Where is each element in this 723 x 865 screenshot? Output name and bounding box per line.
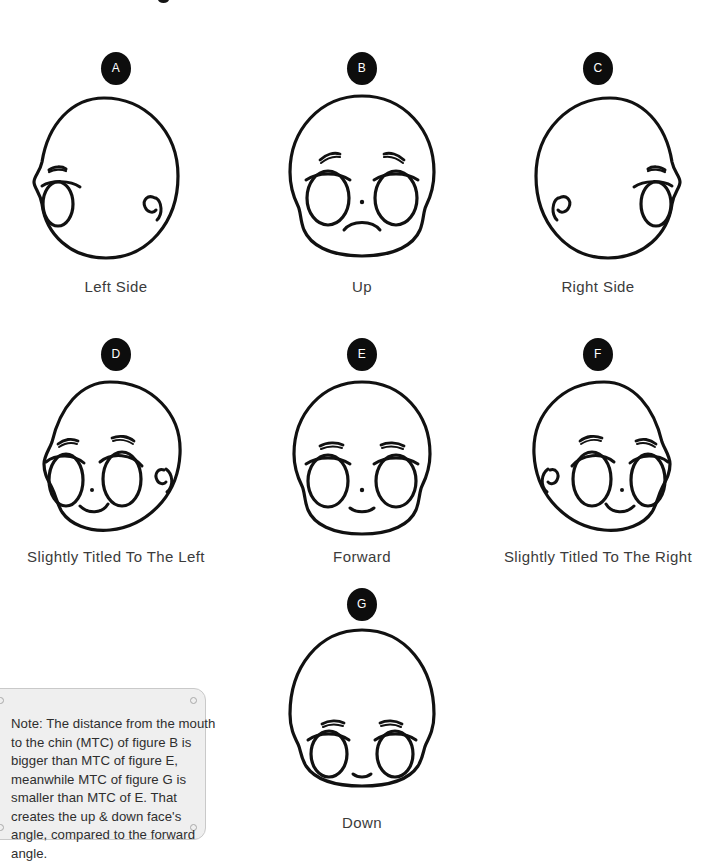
figure-a: A Left Side: [0, 52, 236, 302]
caption-wrap-c: Right Side: [478, 274, 718, 300]
figure-badge-e: E: [347, 338, 377, 371]
caption-wrap-e: Forward: [242, 544, 482, 570]
figure-badge-d: D: [101, 338, 131, 371]
caption-wrap-f: Slightly Titled To The Right: [478, 544, 718, 570]
figure-c: C Right Side: [478, 52, 718, 302]
face-drawing-tilted-right: [508, 374, 688, 553]
face-drawing-tilted-left: [26, 374, 206, 553]
caption-wrap-d: Slightly Titled To The Left: [0, 544, 236, 570]
note-corner-dot-bottom-left: [0, 824, 4, 831]
figure-caption-a: Left Side: [69, 274, 164, 300]
figure-e: E: [242, 338, 482, 578]
figure-badge-g: G: [347, 588, 377, 621]
figure-badge-f: F: [583, 338, 613, 371]
face-drawing-forward: [272, 374, 452, 553]
caption-wrap-a: Left Side: [0, 274, 236, 300]
figure-g: G: [242, 588, 482, 838]
caption-wrap-g: Down: [242, 810, 482, 836]
figure-caption-c: Right Side: [545, 274, 650, 300]
face-drawing-down: [272, 624, 452, 818]
figure-badge-a: A: [101, 52, 131, 85]
face-drawing-up: [272, 88, 452, 282]
figure-badge-c: C: [583, 52, 613, 85]
reference-sheet: A Left Side: [0, 0, 723, 865]
note-text: Note: The distance from the mouth to the…: [11, 715, 221, 863]
figure-caption-d: Slightly Titled To The Left: [11, 544, 221, 570]
figure-caption-f: Slightly Titled To The Right: [488, 544, 708, 570]
figure-caption-b: Up: [336, 274, 388, 300]
note-corner-dot-top-right: [190, 697, 197, 704]
caption-wrap-b: Up: [242, 274, 482, 300]
figure-b: B: [242, 52, 482, 302]
figure-d: D: [0, 338, 236, 578]
note-corner-dot-top-left: [0, 697, 4, 704]
cropped-title-artifact: [158, 0, 169, 3]
figure-caption-g: Down: [326, 810, 398, 836]
face-drawing-left-side: [26, 88, 206, 282]
figure-f: F Sl: [478, 338, 718, 578]
face-drawing-right-side: [508, 88, 688, 282]
figure-badge-b: B: [347, 52, 377, 85]
note-box: Note: The distance from the mouth to the…: [0, 688, 206, 840]
figure-caption-e: Forward: [317, 544, 407, 570]
